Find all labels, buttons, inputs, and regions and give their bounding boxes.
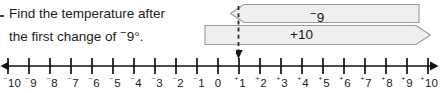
tick-value: 1	[239, 77, 245, 89]
tick-value: 5	[114, 77, 120, 89]
tick-label-plus-3: ⁺3	[276, 74, 287, 89]
tick-label-minus-2: ⁻2	[172, 74, 183, 89]
tick-label-minus-1: ⁻1	[193, 74, 204, 89]
axis-ticks	[8, 58, 428, 74]
tick-value: 2	[177, 77, 183, 89]
minus-nine-value: 9	[317, 10, 325, 25]
tick-value: 2	[260, 77, 266, 89]
tick-label-plus-2: ⁺2	[255, 74, 266, 89]
tick-label-plus-4: ⁺4	[297, 74, 308, 89]
tick-value: 9	[406, 77, 412, 89]
plus-ten-value: 10	[298, 27, 313, 42]
tick-value: 5	[323, 77, 329, 89]
tick-value: 10	[8, 77, 21, 89]
tick-value: 1	[198, 77, 204, 89]
tick-value: 8	[51, 77, 57, 89]
tick-value: 9	[30, 77, 36, 89]
tick-label-minus-4: ⁻4	[130, 74, 141, 89]
arrow-banner-group: −9 +10	[0, 0, 443, 50]
tick-label-minus-5: ⁻5	[109, 74, 120, 89]
tick-value: 7	[72, 77, 78, 89]
minus-nine-sign-glyph: −	[310, 7, 316, 19]
plus-ten-sign-glyph: +	[290, 27, 298, 42]
tick-value: 3	[281, 77, 287, 89]
tick-value: 6	[344, 77, 350, 89]
tick-label-zero: 0	[215, 74, 221, 89]
tick-label-minus-10: ⁻10	[3, 74, 21, 89]
tick-label-minus-7: ⁻7	[67, 74, 78, 89]
tick-label-minus-8: ⁻8	[46, 74, 57, 89]
tick-value: 7	[365, 77, 371, 89]
tick-label-plus-10: ⁺10	[420, 74, 438, 89]
tick-label-minus-3: ⁻3	[151, 74, 162, 89]
minus-nine-arrow	[229, 3, 420, 24]
tick-label-minus-9: ⁻9	[25, 74, 36, 89]
tick-label-plus-6: ⁺6	[339, 74, 350, 89]
minus-nine-arrow-label: −9	[310, 6, 324, 25]
tick-label-plus-7: ⁺7	[360, 74, 371, 89]
tick-label-plus-1: ⁺1	[234, 74, 245, 89]
tick-value: 8	[386, 77, 392, 89]
plus-ten-arrow-label: +10	[290, 28, 313, 42]
tick-label-minus-6: ⁻6	[88, 74, 99, 89]
axis-right-arrowhead	[430, 62, 439, 71]
tick-label-plus-9: ⁺9	[401, 74, 412, 89]
tick-value: 0	[215, 77, 221, 89]
tick-label-plus-8: ⁺8	[381, 74, 392, 89]
tick-value: 10	[425, 77, 438, 89]
tick-value: 3	[156, 77, 162, 89]
tick-value: 4	[135, 77, 141, 89]
tick-value: 6	[93, 77, 99, 89]
tick-value: 4	[302, 77, 308, 89]
tick-label-plus-5: ⁺5	[318, 74, 329, 89]
